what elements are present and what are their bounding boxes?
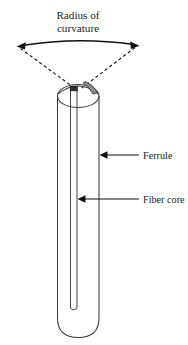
diagram-canvas: Radius of curvature: [0, 0, 188, 345]
fiber-core-leader-arrowhead: [78, 195, 86, 202]
title-line-1: Radius of: [56, 9, 99, 21]
fiber-ferrule-diagram: Radius of curvature: [0, 0, 188, 345]
fiber-core-label: Fiber core: [143, 194, 185, 205]
fiber-core: [70, 86, 77, 310]
radius-of-curvature-arc: [17, 41, 140, 50]
core-tip-bottom: [71, 308, 78, 310]
callout-ferrule: Ferrule: [100, 150, 173, 161]
ferrule-body: [58, 96, 100, 338]
core-cap: [70, 86, 77, 91]
dome-shade-patch: [83, 82, 98, 95]
dashed-radius-left: [21, 49, 77, 90]
callout-fiber-core: Fiber core: [78, 194, 186, 205]
ferrule-label: Ferrule: [143, 150, 173, 161]
title-line-2: curvature: [57, 22, 99, 34]
ferrule-bottom: [58, 318, 100, 338]
dashed-radius-lines: [21, 48, 136, 90]
arc-arrow-curve: [22, 41, 134, 46]
ferrule-leader-arrowhead: [100, 151, 108, 158]
